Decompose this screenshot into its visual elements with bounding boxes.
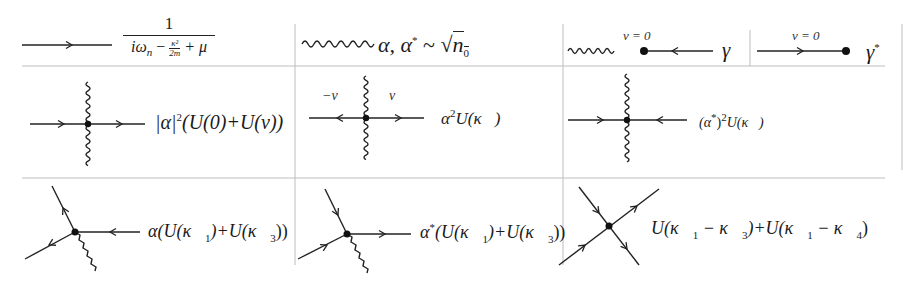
vertex-dot-icon (363, 115, 369, 121)
nu-zero-label: ν = 0 (623, 28, 651, 44)
three-leg-vertex-alpha-icon (25, 186, 140, 271)
three-leg-vertex-alpha-star-icon (298, 189, 411, 273)
condensate-wavy-line-icon (302, 41, 374, 47)
nu-zero-label: ν = 0 (792, 28, 820, 44)
fraction-numerator: 1 (123, 14, 215, 34)
vertex-dot-icon (640, 47, 648, 55)
gamma-star-expression: γ* (866, 40, 880, 65)
vertex-dots (72, 47, 851, 238)
fraction-denominator: iωn − κ²2m + μ (123, 37, 215, 62)
propagator-expression: 1 iωn − κ²2m + μ (123, 14, 215, 62)
condensate-expression: α, α* ~ √n0 (378, 32, 469, 59)
vertex-term-expression: |α|2(U(0)+U(ν)) (155, 111, 283, 134)
vertex-dot-icon (606, 223, 613, 230)
three-leg-alpha-expression: α(U(κ⃗1)+U(κ⃗3)) (148, 221, 288, 244)
propagator-arrow-icon (22, 42, 112, 49)
vertex-dot-icon (842, 47, 850, 55)
gamma-star-vertex-icon (757, 48, 846, 55)
vertex-dot-icon (624, 117, 630, 123)
vertex-dot-icon (85, 121, 91, 127)
vertex-dot-icon (344, 231, 351, 238)
vertex-dot-icon (72, 229, 79, 236)
gamma-expression: γ (722, 38, 730, 63)
pair-creation-expression: α2U(κ⃗) (441, 107, 500, 129)
pair-annihilation-expression: (α*)2U(κ⃗) (699, 111, 764, 131)
four-leg-expression: U(κ⃗1 − κ⃗3)+U(κ⃗1 − κ⃗4) (651, 218, 868, 241)
three-leg-alpha-star-expression: α*(U(κ⃗1)+U(κ⃗3)) (420, 221, 565, 245)
nu-label: ν (389, 88, 395, 104)
fraction-bar (123, 35, 215, 36)
minus-nu-label: −ν (322, 88, 338, 104)
